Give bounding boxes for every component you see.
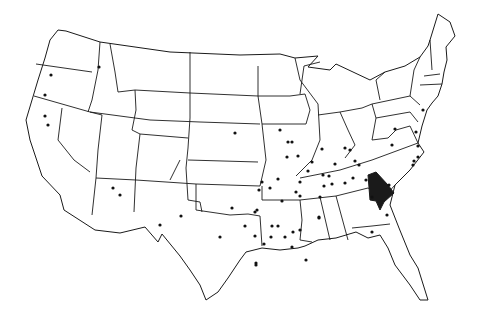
location-dot xyxy=(298,180,301,183)
location-dot xyxy=(260,180,263,183)
location-dot xyxy=(268,186,271,189)
location-dot xyxy=(254,263,257,266)
location-dot xyxy=(343,181,346,184)
location-dot xyxy=(387,183,390,186)
location-dot xyxy=(280,199,283,202)
location-dot xyxy=(357,163,360,166)
location-dot xyxy=(364,178,367,181)
location-dot xyxy=(294,190,297,193)
location-dot xyxy=(111,186,114,189)
location-dot xyxy=(46,123,49,126)
location-dot xyxy=(276,224,279,227)
location-dot xyxy=(390,143,393,146)
location-dot xyxy=(298,194,301,197)
location-dot xyxy=(370,195,373,198)
location-dot xyxy=(412,159,415,162)
location-dot xyxy=(327,174,330,177)
location-dot xyxy=(97,65,100,68)
location-dot xyxy=(416,144,419,147)
states-outline xyxy=(26,14,455,300)
location-dot xyxy=(43,114,46,117)
location-dot xyxy=(321,173,324,176)
us-map xyxy=(0,0,479,318)
location-dot xyxy=(253,234,256,237)
location-dot xyxy=(348,148,351,151)
location-dot xyxy=(290,140,293,143)
location-dot xyxy=(255,208,258,211)
location-dot xyxy=(218,235,221,238)
location-dot xyxy=(49,73,52,76)
location-dot xyxy=(270,224,273,227)
location-dot xyxy=(421,108,424,111)
location-dot xyxy=(318,195,321,198)
location-dot xyxy=(414,130,417,133)
location-dot xyxy=(304,258,307,261)
location-dot xyxy=(306,169,309,172)
location-dot xyxy=(233,131,236,134)
location-dot xyxy=(322,184,325,187)
location-dot xyxy=(283,235,286,238)
location-dot xyxy=(291,230,294,233)
location-dot xyxy=(179,214,182,217)
location-dot xyxy=(298,228,301,231)
location-dot xyxy=(353,159,356,162)
location-dot xyxy=(158,223,161,226)
location-dot xyxy=(257,188,260,191)
location-dot xyxy=(262,242,265,245)
location-dot xyxy=(370,230,373,233)
location-dot xyxy=(243,224,246,227)
location-dot xyxy=(296,154,299,157)
location-dot xyxy=(411,163,414,166)
location-dot xyxy=(333,162,336,165)
location-dot xyxy=(330,182,333,185)
location-dot xyxy=(269,235,272,238)
location-dot xyxy=(351,176,354,179)
location-dot xyxy=(416,155,419,158)
location-dot xyxy=(43,93,46,96)
location-dot xyxy=(343,146,346,149)
location-dot xyxy=(310,160,313,163)
location-dot xyxy=(276,177,279,180)
location-dot xyxy=(118,193,121,196)
location-dot xyxy=(290,245,293,248)
location-dot xyxy=(317,215,320,218)
location-dot xyxy=(230,206,233,209)
location-dot xyxy=(385,213,388,216)
location-dot xyxy=(286,140,289,143)
location-dot xyxy=(285,155,288,158)
location-dot xyxy=(393,127,396,130)
location-dot xyxy=(320,147,323,150)
location-dot xyxy=(278,128,281,131)
